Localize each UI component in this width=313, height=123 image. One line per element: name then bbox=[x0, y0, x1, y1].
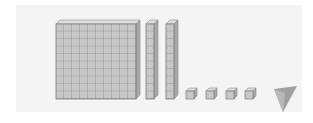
ten-rod-1 bbox=[146, 20, 158, 99]
page-curl-icon bbox=[274, 86, 297, 112]
hundred-flat bbox=[56, 20, 140, 99]
unit-cube-3 bbox=[226, 88, 237, 99]
ten-rod-2 bbox=[166, 20, 178, 99]
unit-cube-4 bbox=[245, 88, 256, 99]
unit-cube-1 bbox=[186, 88, 197, 99]
base-ten-blocks bbox=[0, 0, 313, 123]
unit-cube-2 bbox=[206, 88, 217, 99]
